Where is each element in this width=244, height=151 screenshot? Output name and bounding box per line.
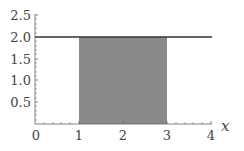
y-tick-label: 2.5 [10, 8, 31, 23]
y-tick-label: 0.5 [10, 95, 31, 110]
y-tick-label: 1.0 [10, 73, 31, 88]
x-tick-label: 0 [32, 128, 40, 143]
chart: 2.5 2.0 1.5 1.0 0.5 0 1 2 3 4 x [0, 0, 244, 151]
x-tick-label: 4 [207, 128, 215, 143]
x-tick-label: 3 [163, 128, 171, 143]
y-axis [35, 14, 38, 124]
x-axis-label: x [221, 117, 230, 135]
x-tick-label: 1 [75, 128, 83, 143]
shaded-region [79, 37, 167, 124]
x-tick-label: 2 [119, 128, 127, 143]
y-tick-label: 1.5 [10, 52, 31, 67]
y-tick-label: 2.0 [10, 30, 31, 45]
